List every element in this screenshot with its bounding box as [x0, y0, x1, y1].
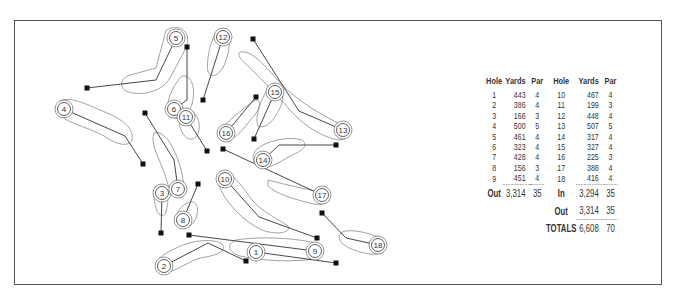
tee-icon [334, 143, 339, 148]
par-cell: 3 [603, 100, 617, 110]
green-hole-14: 14 [254, 151, 272, 169]
hole-cell: 6 [485, 142, 503, 152]
table-row: 5 461 4 14 317 4 [485, 132, 618, 142]
yards-cell: 448 [577, 111, 604, 121]
green-hole-17: 17 [313, 186, 331, 204]
yards-cell: 156 [503, 163, 530, 173]
yards-cell: 317 [577, 132, 604, 142]
scorecard-header-row: Hole Yards Par Hole Yards Par [485, 76, 618, 90]
par-cell: 4 [530, 90, 544, 100]
in-yards: 3,294 [577, 184, 604, 202]
par-cell: 4 [603, 132, 617, 142]
hole-number: 16 [222, 129, 231, 138]
hole-number: 12 [219, 33, 228, 42]
hole-18-line [322, 213, 378, 245]
hole-10-line [225, 179, 317, 238]
yards-cell: 166 [503, 111, 530, 121]
par-cell: 4 [530, 100, 544, 110]
hole-cell: 12 [546, 111, 577, 121]
hole-number: 2 [162, 262, 167, 271]
table-row: 3 166 3 12 448 4 [485, 111, 618, 121]
totals-par: 70 [603, 219, 617, 237]
hole-number: 15 [271, 88, 280, 97]
header-yards: Yards [503, 76, 530, 90]
hole-cell: 3 [485, 111, 503, 121]
table-row: 7 428 4 16 225 3 [485, 152, 618, 162]
green-hole-11: 11 [177, 108, 195, 126]
tee-icon [315, 236, 320, 241]
par-cell: 3 [603, 152, 617, 162]
tee-icon [320, 211, 325, 216]
par-cell: 3 [530, 163, 544, 173]
yards-cell: 443 [503, 90, 530, 100]
hole-14-line [263, 145, 336, 160]
tee-icon [252, 137, 257, 142]
tee-icon [185, 45, 190, 50]
header-par: Par [530, 76, 544, 90]
green-hole-12: 12 [214, 28, 232, 46]
hole-cell: 16 [546, 152, 577, 162]
in-par: 35 [603, 184, 617, 202]
tee-icon [334, 261, 339, 266]
totals-row: TOTALS 6,608 70 [485, 219, 618, 237]
header-hole: Hole [546, 76, 577, 90]
hole-cell: 17 [546, 163, 577, 173]
tee-icon [244, 259, 249, 264]
hole-cell: 8 [485, 163, 503, 173]
out-repeat-label: Out [546, 202, 577, 220]
yards-cell: 451 [503, 173, 530, 184]
tee-icon [221, 147, 226, 152]
hole-cell: 18 [546, 173, 577, 184]
green-hole-1: 1 [247, 243, 265, 261]
hole-number: 1 [254, 248, 259, 257]
par-cell: 4 [603, 90, 617, 100]
table-row: 2 386 4 11 199 3 [485, 100, 618, 110]
hole-number: 4 [62, 105, 67, 114]
par-cell: 4 [530, 173, 544, 184]
green-hole-4: 4 [55, 100, 73, 118]
par-cell: 4 [603, 163, 617, 173]
par-cell: 5 [603, 121, 617, 131]
green-hole-5: 5 [167, 29, 185, 47]
scorecard-table: Hole Yards Par Hole Yards Par 1 443 4 10… [485, 76, 618, 237]
tee-icon [205, 149, 210, 154]
hole-17-line [223, 149, 322, 195]
hole-number: 8 [181, 216, 186, 225]
green-hole-18: 18 [369, 236, 387, 254]
tee-icon [143, 111, 148, 116]
green-hole-15: 15 [266, 83, 284, 101]
table-row: 4 500 5 13 507 5 [485, 121, 618, 131]
header-par: Par [603, 76, 617, 90]
yards-cell: 461 [503, 132, 530, 142]
hole-cell: 9 [485, 173, 503, 184]
hole-4-line [64, 109, 143, 164]
green-hole-2: 2 [155, 257, 173, 275]
yards-cell: 500 [503, 121, 530, 131]
out-repeat-yards: 3,314 [577, 202, 604, 220]
green-hole-9: 9 [306, 242, 324, 260]
tee-icon [251, 37, 256, 42]
yards-cell: 225 [577, 152, 604, 162]
hole-number: 3 [160, 189, 165, 198]
tee-icon [201, 98, 206, 103]
hole-number: 18 [374, 241, 383, 250]
out-yards: 3,314 [503, 184, 530, 202]
hole-cell: 13 [546, 121, 577, 131]
out-label: Out [485, 184, 503, 202]
in-label: In [546, 184, 577, 202]
par-cell: 4 [530, 152, 544, 162]
tee-icon [159, 231, 164, 236]
tee-icon [85, 86, 90, 91]
green-hole-3: 3 [153, 184, 171, 202]
table-row: 6 323 4 15 327 4 [485, 142, 618, 152]
yards-cell: 388 [577, 163, 604, 173]
tee-icon [254, 95, 259, 100]
par-cell: 4 [603, 111, 617, 121]
yards-cell: 428 [503, 152, 530, 162]
tee-icon [141, 162, 146, 167]
green-hole-10: 10 [216, 170, 234, 188]
hole-12-line [203, 37, 223, 100]
yards-cell: 416 [577, 173, 604, 184]
par-cell: 4 [603, 142, 617, 152]
tee-icon [187, 233, 192, 238]
